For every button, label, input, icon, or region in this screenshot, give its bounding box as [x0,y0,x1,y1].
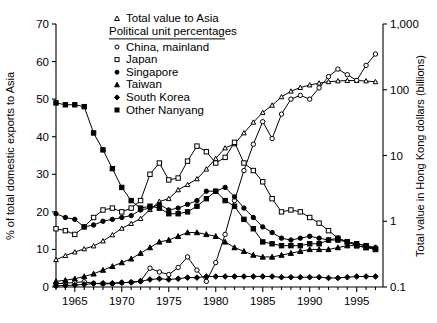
data-point-circle-filled [279,236,283,240]
data-point-square-open [167,178,171,182]
data-point-square-open [129,206,133,210]
data-point-diamond-filled [307,274,313,280]
data-point-circle-filled [204,189,208,193]
data-point-diamond-filled [326,275,332,281]
data-point-triangle-open [119,226,124,230]
data-point-circle-filled [223,185,227,189]
data-point-triangle-open [307,83,312,87]
x-tick-label: 1965 [62,295,88,307]
data-point-square-filled [308,242,312,246]
data-point-diamond-filled [316,274,322,280]
data-point-square-open [251,168,255,172]
data-point-circle-filled [82,225,86,229]
data-point-circle-filled [54,212,58,216]
data-point-circle-filled [195,198,199,202]
data-point-circle-open [185,255,189,259]
data-point-triangle-open [101,239,106,243]
data-point-triangle-filled [63,278,68,283]
x-tick-label: 1975 [156,295,182,307]
data-point-square-open [176,176,180,180]
data-point-triangle-filled [307,247,312,252]
data-point-triangle-open [279,94,284,98]
data-point-square-open [326,228,330,232]
data-point-circle-open [176,265,180,269]
data-point-square-open [223,155,227,159]
data-point-triangle-open [110,233,115,237]
data-point-triangle-open [63,253,68,257]
data-point-triangle-filled [288,250,293,255]
data-point-diamond-filled [298,274,304,280]
data-point-square-filled [101,148,105,152]
x-tick-label: 1990 [297,295,323,307]
data-point-square-open [157,161,161,165]
x-axis-ticks: 1965197019751980198519901995 [56,287,375,307]
data-point-triangle-open [326,79,331,83]
legend-label: Other Nanyang [126,104,204,116]
legend-label: Total value to Asia [126,12,219,24]
data-point-triangle-filled [166,237,171,242]
data-point-triangle-filled [326,247,331,252]
data-point-circle-open [223,232,227,236]
data-point-circle-filled [242,206,246,210]
data-point-square-open [214,161,218,165]
data-point-square-filled [354,242,358,246]
data-point-circle-open [373,52,377,56]
data-point-square-open [101,208,105,212]
data-point-triangle-open [364,79,369,83]
y-tick-label-right: 0.1 [390,281,406,293]
data-point-square-open [242,161,246,165]
data-point-square-filled [185,210,189,214]
x-tick-label: 1995 [344,295,370,307]
data-point-diamond-filled [114,95,119,100]
y-tick-label-left: 30 [36,168,49,180]
data-point-square-filled [110,166,114,170]
data-point-square-filled [115,108,119,112]
data-point-square-filled [63,103,67,107]
data-point-square-filled [326,238,330,242]
data-point-circle-filled [261,225,265,229]
data-point-square-open [317,221,321,225]
data-point-square-filled [251,227,255,231]
data-point-diamond-filled [194,275,200,281]
data-point-triangle-filled [129,256,134,261]
data-point-circle-open [214,260,218,264]
data-point-circle-open [308,97,312,101]
chart-container: 010203040506070 0.11101001,000 196519701… [0,0,437,323]
data-point-triangle-open [129,221,134,225]
data-point-square-filled [138,206,142,210]
data-point-triangle-filled [241,249,246,254]
data-point-square-open [185,159,189,163]
data-point-square-open [261,180,265,184]
data-point-triangle-open [82,246,87,250]
data-point-triangle-open [72,250,77,254]
data-point-diamond-filled [354,274,360,280]
data-point-circle-filled [251,215,255,219]
data-point-circle-filled [110,217,114,221]
data-point-triangle-filled [82,274,87,279]
data-point-triangle-open [54,257,59,261]
data-point-diamond-filled [260,274,266,280]
data-point-circle-filled [120,215,124,219]
data-point-diamond-filled [279,274,285,280]
data-point-triangle-filled [119,260,124,265]
data-point-diamond-filled [232,274,238,280]
data-point-circle-open [157,270,161,274]
data-point-triangle-filled [251,252,256,257]
x-tick-label: 1985 [250,295,276,307]
data-point-circle-open [148,266,152,270]
data-point-square-filled [73,103,77,107]
data-point-square-open [138,198,142,202]
y-tick-label-right: 10 [390,150,403,162]
data-point-triangle-filled [204,232,209,237]
data-point-square-filled [345,240,349,244]
data-point-triangle-open [185,182,190,186]
data-point-triangle-filled [213,234,218,239]
y-tick-label-left: 40 [36,131,49,143]
data-point-triangle-filled [270,254,275,259]
y-tick-label-left: 60 [36,56,49,68]
data-point-triangle-filled [298,249,303,254]
data-point-square-open [63,228,67,232]
x-tick-label: 1980 [203,295,229,307]
data-point-circle-filled [289,238,293,242]
data-point-circle-open [251,142,255,146]
